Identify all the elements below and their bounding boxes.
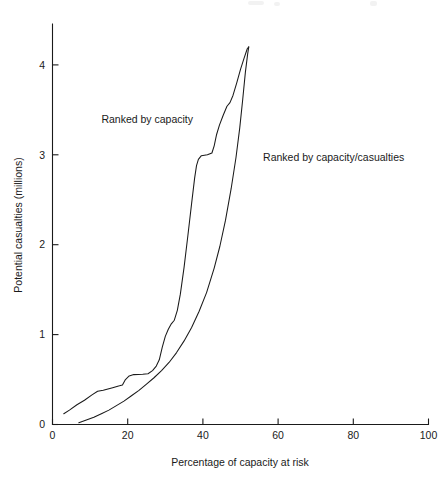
series-line-ranked-by-capacity [64, 47, 249, 414]
chart-figure: 0 1 2 3 4 0 20 40 60 80 100 [0, 0, 446, 481]
y-tick-label-3: 3 [39, 149, 45, 161]
series-line-ranked-by-capacity-casualties [79, 47, 249, 423]
x-tick-label-80: 80 [347, 429, 359, 441]
series-annotations: Ranked by capacity Ranked by capacity/ca… [101, 113, 404, 163]
x-tick-label-40: 40 [197, 429, 209, 441]
scan-artifacts [248, 1, 377, 6]
annotation-ranked-by-capacity: Ranked by capacity [101, 113, 193, 125]
plot-axes [53, 24, 429, 425]
x-tick-label-60: 60 [272, 429, 284, 441]
y-axis-ticks: 0 1 2 3 4 [39, 59, 58, 430]
annotation-ranked-by-capacity-casualties: Ranked by capacity/casualties [263, 151, 404, 163]
y-tick-label-4: 4 [39, 59, 45, 71]
potential-casualties-line-chart: 0 1 2 3 4 0 20 40 60 80 100 [0, 0, 446, 481]
x-axis-ticks: 0 20 40 60 80 100 [50, 419, 438, 442]
y-tick-label-2: 2 [39, 238, 45, 250]
x-axis-title: Percentage of capacity at risk [171, 456, 309, 468]
y-tick-label-1: 1 [39, 328, 45, 340]
x-tick-label-20: 20 [122, 429, 134, 441]
x-tick-label-0: 0 [50, 429, 56, 441]
y-tick-label-0: 0 [39, 418, 45, 430]
y-axis-title: Potential casualties (millions) [12, 157, 24, 292]
data-series-group [64, 47, 249, 423]
x-tick-label-100: 100 [420, 429, 438, 441]
